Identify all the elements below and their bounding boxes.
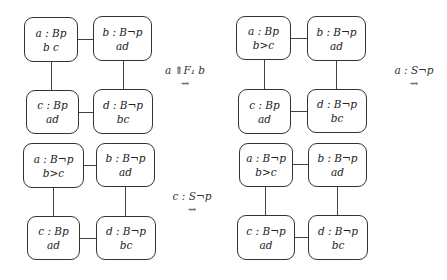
node-label: a : B¬p bbox=[24, 152, 83, 166]
node-a: a : B¬p b>c bbox=[239, 143, 293, 187]
squiggle-arrow-icon: ⇝ bbox=[384, 77, 444, 91]
transition-2: a : S¬p ⇝ bbox=[384, 63, 444, 91]
transition-label: a : S¬p bbox=[394, 64, 433, 76]
edge-a-b bbox=[84, 165, 96, 166]
edge-a-b bbox=[293, 164, 308, 165]
node-d: d : B¬p bc bbox=[93, 89, 153, 134]
edge-c-d bbox=[80, 238, 96, 239]
edge-b-d bbox=[123, 61, 124, 89]
node-b: b : B¬p ad bbox=[96, 143, 155, 187]
node-label: a : B¬p bbox=[240, 151, 292, 165]
node-a: a : B¬p b>c bbox=[23, 143, 84, 188]
node-label: a : Bp bbox=[237, 24, 290, 38]
edge-c-d bbox=[79, 112, 93, 113]
node-order: ad bbox=[238, 238, 294, 252]
node-order: b>c bbox=[237, 38, 290, 52]
edge-a-c bbox=[265, 187, 266, 215]
node-order: b>c bbox=[240, 165, 292, 179]
node-c: c : Bp ad bbox=[27, 216, 80, 260]
node-c: c : Bp ad bbox=[238, 89, 291, 134]
node-label: c : Bp bbox=[28, 224, 79, 238]
node-c: c : Bp ad bbox=[26, 90, 79, 134]
node-d: d : B¬p bc bbox=[308, 215, 368, 260]
node-d: d : B¬p bc bbox=[307, 89, 367, 133]
node-c: c : B¬p ad bbox=[237, 215, 295, 260]
transition-label: a ⇑F₁ b bbox=[165, 64, 205, 76]
edge-a-c bbox=[264, 60, 265, 89]
transition-1: a ⇑F₁ b ⇝ bbox=[155, 63, 215, 91]
node-b: b : B¬p ad bbox=[93, 16, 152, 61]
edge-b-d bbox=[337, 187, 338, 215]
edge-b-d bbox=[125, 187, 126, 216]
node-label: d : B¬p bbox=[94, 98, 152, 112]
edge-a-c bbox=[51, 62, 52, 90]
squiggle-arrow-icon: ⇝ bbox=[155, 77, 215, 91]
node-label: a : Bp bbox=[25, 26, 77, 40]
node-order: ad bbox=[239, 112, 290, 126]
node-b: b : B¬p ad bbox=[307, 16, 366, 61]
node-label: b : B¬p bbox=[94, 25, 151, 39]
node-order: bc bbox=[97, 238, 155, 252]
node-b: b : B¬p ad bbox=[308, 143, 367, 187]
node-order: ad bbox=[97, 165, 154, 179]
node-order: ad bbox=[28, 238, 79, 252]
node-d: d : B¬p bc bbox=[96, 216, 156, 260]
node-a: a : Bp b c bbox=[24, 17, 78, 62]
transition-3: c : S¬p ⇝ bbox=[162, 189, 222, 217]
node-label: c : Bp bbox=[239, 98, 290, 112]
node-label: b : B¬p bbox=[309, 151, 366, 165]
edge-c-d bbox=[295, 237, 308, 238]
node-label: c : B¬p bbox=[238, 224, 294, 238]
node-order: b c bbox=[25, 40, 77, 54]
node-order: ad bbox=[27, 112, 78, 126]
node-order: bc bbox=[309, 238, 367, 252]
node-order: ad bbox=[94, 39, 151, 53]
squiggle-arrow-icon: ⇝ bbox=[162, 203, 222, 217]
node-order: bc bbox=[94, 112, 152, 126]
node-label: c : Bp bbox=[27, 98, 78, 112]
node-label: d : B¬p bbox=[308, 97, 366, 111]
node-order: b>c bbox=[24, 166, 83, 180]
edge-b-d bbox=[336, 61, 337, 89]
node-order: ad bbox=[308, 39, 365, 53]
edge-a-c bbox=[53, 188, 54, 216]
node-label: b : B¬p bbox=[308, 25, 365, 39]
node-label: d : B¬p bbox=[309, 224, 367, 238]
node-order: bc bbox=[308, 111, 366, 125]
node-order: ad bbox=[309, 165, 366, 179]
edge-a-b bbox=[78, 39, 93, 40]
transition-label: c : S¬p bbox=[173, 190, 212, 202]
edge-a-b bbox=[291, 38, 307, 39]
node-a: a : Bp b>c bbox=[236, 16, 291, 60]
node-label: d : B¬p bbox=[97, 224, 155, 238]
node-label: b : B¬p bbox=[97, 151, 154, 165]
edge-c-d bbox=[291, 111, 307, 112]
